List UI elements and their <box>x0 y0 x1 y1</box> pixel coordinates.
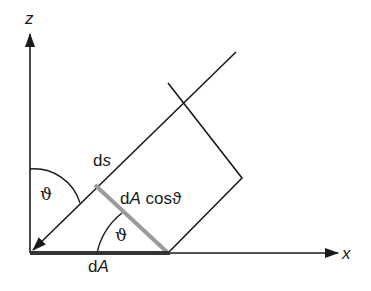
dA-label-A: A <box>96 257 108 276</box>
ds-label-s: s <box>102 151 111 170</box>
dA-cos-label-d: d <box>120 189 129 208</box>
z-axis-label: z <box>24 9 34 28</box>
dA-label: dA <box>88 257 109 276</box>
x-axis-label: x <box>341 244 351 263</box>
dA-label-d: d <box>88 257 97 276</box>
theta-bottom-label: ϑ <box>115 225 127 245</box>
angle-arc-top <box>30 169 80 203</box>
ds-label-d: d <box>93 151 102 170</box>
dA-cos-theta-label: dA cosϑ <box>120 189 182 208</box>
theta-top-label: ϑ <box>40 184 52 204</box>
ds-label: ds <box>93 151 111 170</box>
dA-cos-label-rest: cosϑ <box>141 189 182 208</box>
dA-cos-label-A: A <box>128 189 140 208</box>
diagram-canvas: z x ϑ ϑ ds dA cosϑ dA <box>0 0 371 291</box>
